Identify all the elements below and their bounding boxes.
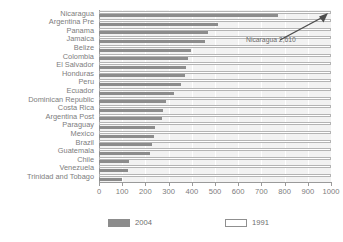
bar-row bbox=[99, 70, 331, 79]
bar-2004 bbox=[99, 83, 181, 86]
bar-2004 bbox=[99, 135, 154, 138]
bar-1991 bbox=[99, 131, 331, 134]
y-axis-label: Ecuador bbox=[66, 87, 94, 95]
x-axis-tick-label: 900 bbox=[301, 187, 314, 196]
bar-1991 bbox=[99, 122, 331, 125]
bar-row bbox=[99, 139, 331, 148]
x-axis-tick-label: 500 bbox=[209, 187, 222, 196]
bar-1991 bbox=[99, 79, 331, 82]
x-axis-tick bbox=[261, 182, 262, 186]
x-axis-tick-label: 300 bbox=[162, 187, 175, 196]
bar-row bbox=[99, 53, 331, 62]
bar-2004 bbox=[99, 66, 186, 69]
legend-swatch-2004 bbox=[108, 219, 130, 227]
y-axis-label: El Salvador bbox=[56, 61, 94, 69]
legend-item-1991: 1991 bbox=[225, 218, 269, 227]
bar-row bbox=[99, 130, 331, 139]
bar-2004 bbox=[99, 152, 150, 155]
bar-2004 bbox=[99, 109, 163, 112]
x-axis-tick bbox=[238, 182, 239, 186]
bar-2004 bbox=[99, 178, 122, 181]
bar-2004 bbox=[99, 57, 188, 60]
bar-2004 bbox=[99, 74, 185, 77]
bar-row bbox=[99, 87, 331, 96]
bar-2004 bbox=[99, 23, 218, 26]
bar-1991 bbox=[99, 62, 331, 65]
bar-1991 bbox=[99, 105, 331, 108]
bar-1991 bbox=[99, 71, 331, 74]
x-axis-tick bbox=[285, 182, 286, 186]
bar-1991 bbox=[99, 140, 331, 143]
bar-1991 bbox=[99, 165, 331, 168]
bar-row bbox=[99, 173, 331, 182]
y-axis-label: Mexico bbox=[71, 130, 94, 138]
bar-2004 bbox=[99, 31, 208, 34]
x-axis-tick-label: 800 bbox=[278, 187, 291, 196]
bar-2004 bbox=[99, 100, 166, 103]
bar-1991 bbox=[99, 45, 331, 48]
bar-row bbox=[99, 165, 331, 174]
bar-1991 bbox=[99, 97, 331, 100]
x-axis-tick-label: 700 bbox=[255, 187, 268, 196]
y-axis-label: Costa Rica bbox=[58, 104, 94, 112]
y-axis-labels: NicaraguaArgentina PrePanamaJamaicaBeliz… bbox=[0, 10, 97, 182]
bar-row bbox=[99, 96, 331, 105]
legend-label-2004: 2004 bbox=[135, 218, 152, 227]
legend-item-2004: 2004 bbox=[108, 218, 152, 227]
bar-2004 bbox=[99, 40, 205, 43]
bar-2004 bbox=[99, 117, 162, 120]
bar-row bbox=[99, 113, 331, 122]
bar-row bbox=[99, 62, 331, 71]
x-axis-tick bbox=[99, 182, 100, 186]
y-axis-label: Guatemala bbox=[58, 147, 94, 155]
y-axis-label: Argentina Pre bbox=[49, 18, 94, 26]
chart-legend: 2004 1991 bbox=[0, 216, 343, 236]
bar-row bbox=[99, 44, 331, 53]
legend-label-1991: 1991 bbox=[252, 218, 269, 227]
gridline bbox=[331, 10, 332, 182]
bar-2004 bbox=[99, 14, 278, 17]
bar-1991 bbox=[99, 148, 331, 151]
x-axis-tick-label: 100 bbox=[116, 187, 129, 196]
bar-row bbox=[99, 156, 331, 165]
x-axis-tick bbox=[122, 182, 123, 186]
x-axis-tick bbox=[145, 182, 146, 186]
bar-row bbox=[99, 105, 331, 114]
bar-1991 bbox=[99, 114, 331, 117]
x-axis-tick-label: 1000 bbox=[323, 187, 340, 196]
x-axis-tick bbox=[331, 182, 332, 186]
x-axis-tick bbox=[192, 182, 193, 186]
annotation-arrow-icon bbox=[278, 12, 330, 42]
bar-row bbox=[99, 148, 331, 157]
bar-1991 bbox=[99, 88, 331, 91]
x-axis-tick bbox=[308, 182, 309, 186]
bar-row bbox=[99, 79, 331, 88]
legend-swatch-1991 bbox=[225, 219, 247, 227]
bar-2004 bbox=[99, 49, 191, 52]
x-axis-tick-label: 0 bbox=[97, 187, 101, 196]
bar-2004 bbox=[99, 92, 174, 95]
bar-1991 bbox=[99, 174, 331, 177]
bar-row bbox=[99, 122, 331, 131]
bar-1991 bbox=[99, 54, 331, 57]
y-axis-label: Belize bbox=[74, 44, 94, 52]
y-axis-label: Trinidad and Tobago bbox=[27, 173, 94, 181]
bar-2004 bbox=[99, 143, 152, 146]
x-axis-tick-label: 400 bbox=[185, 187, 198, 196]
bar-chart: NicaraguaArgentina PrePanamaJamaicaBeliz… bbox=[0, 0, 343, 242]
bar-2004 bbox=[99, 169, 128, 172]
bar-2004 bbox=[99, 160, 129, 163]
x-axis-tick-label: 200 bbox=[139, 187, 152, 196]
x-axis-tick-label: 600 bbox=[232, 187, 245, 196]
x-axis-tick bbox=[215, 182, 216, 186]
x-axis-tick bbox=[169, 182, 170, 186]
bar-2004 bbox=[99, 126, 155, 129]
bar-1991 bbox=[99, 157, 331, 160]
